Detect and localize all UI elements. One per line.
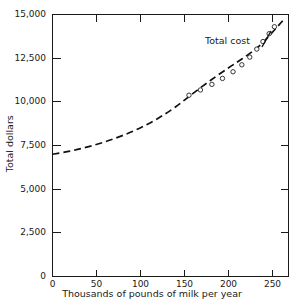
y-tick-label-12500: 12,500 bbox=[0, 54, 46, 63]
data-point-marker bbox=[231, 70, 235, 74]
axis-frame bbox=[52, 14, 289, 277]
y-tick-marks bbox=[53, 15, 61, 277]
data-point-marker bbox=[248, 55, 252, 59]
y-tick-marks-right bbox=[281, 58, 289, 233]
x-tick-marks bbox=[53, 270, 273, 277]
chart-figure: 15,000 12,500 10,000 7,500 5,000 2,500 0… bbox=[0, 0, 304, 304]
x-tick-label-250: 250 bbox=[256, 280, 289, 289]
data-point-marker bbox=[187, 93, 191, 97]
data-point-marker bbox=[255, 47, 259, 51]
plot-area bbox=[0, 0, 304, 304]
x-axis-title: Thousands of pounds of milk per year bbox=[0, 289, 304, 299]
data-point-marker bbox=[220, 76, 224, 80]
x-tick-marks-top bbox=[97, 15, 273, 22]
y-tick-label-15000: 15,000 bbox=[0, 10, 46, 19]
data-point-marker bbox=[198, 88, 202, 92]
data-point-marker bbox=[240, 63, 244, 67]
data-point-marker bbox=[210, 82, 214, 86]
total-cost-curve bbox=[53, 18, 285, 154]
y-tick-label-2500: 2,500 bbox=[0, 228, 46, 237]
series-annotation-total-cost: Total cost bbox=[205, 36, 250, 46]
y-axis-title: Total dollars bbox=[5, 96, 15, 192]
data-point-marker bbox=[272, 25, 276, 29]
